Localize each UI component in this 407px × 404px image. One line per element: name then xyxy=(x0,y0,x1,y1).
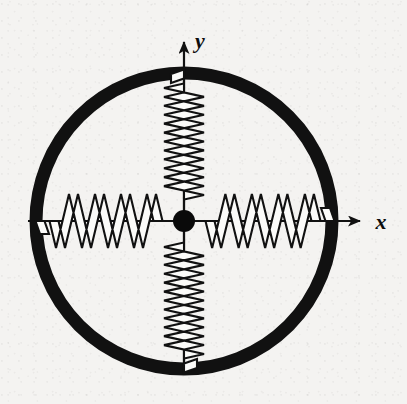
figure-container: xy xyxy=(0,0,407,404)
spring-left xyxy=(36,194,177,248)
spring-mass-ring-diagram: xy xyxy=(0,0,407,404)
point-mass-dot xyxy=(173,210,195,232)
spring-top xyxy=(164,70,204,214)
y-axis-label: y xyxy=(192,28,205,53)
spring-bottom xyxy=(164,229,204,373)
spring-right xyxy=(192,194,335,248)
x-axis-label: x xyxy=(375,209,387,234)
